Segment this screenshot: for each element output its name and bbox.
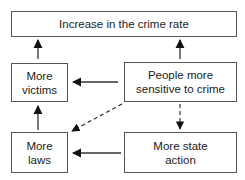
node-more-laws: More laws xyxy=(11,132,68,173)
node-more-state-action-line2: action xyxy=(153,153,207,167)
node-more-victims: More victims xyxy=(11,63,68,102)
node-more-victims-line1: More xyxy=(22,69,57,83)
node-people-more-sensitive-line2: sensitive to crime xyxy=(136,82,225,96)
node-crime-rate-label: Increase in the crime rate xyxy=(59,17,189,31)
node-people-more-sensitive-line1: People more xyxy=(136,68,225,82)
node-more-victims-line2: victims xyxy=(22,83,57,97)
arrow-sensitive-to-laws-dashed xyxy=(72,104,122,131)
node-more-laws-line1: More xyxy=(26,139,52,153)
node-crime-rate: Increase in the crime rate xyxy=(11,11,237,37)
node-more-state-action-line1: More state xyxy=(153,139,207,153)
node-more-state-action: More state action xyxy=(124,132,237,173)
node-people-more-sensitive: People more sensitive to crime xyxy=(124,62,237,102)
node-more-laws-line2: laws xyxy=(26,153,52,167)
